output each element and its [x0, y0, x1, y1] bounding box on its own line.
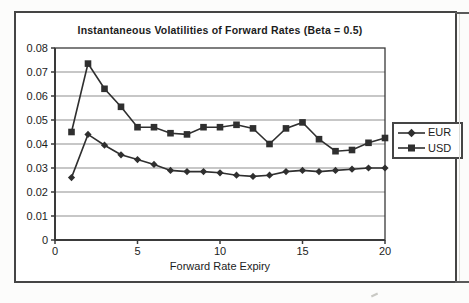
- legend-label-usd: USD: [428, 143, 451, 154]
- usd-marker: [299, 119, 306, 126]
- legend-label-eur: EUR: [428, 127, 451, 138]
- eur-marker: [117, 151, 124, 158]
- scan-artifact-bottom-rule: [455, 281, 469, 283]
- usd-marker: [382, 135, 389, 142]
- usd-marker: [101, 86, 108, 93]
- legend-item-usd: USD: [398, 141, 461, 155]
- y-tick-label: 0.05: [27, 114, 48, 126]
- usd-marker: [349, 147, 356, 154]
- usd-marker: [233, 122, 240, 129]
- legend: EUR USD: [392, 122, 463, 159]
- eur-marker: [282, 168, 289, 175]
- chart-title: Instantaneous Volatilities of Forward Ra…: [50, 24, 390, 36]
- x-tick-label: 0: [52, 245, 58, 257]
- eur-marker: [381, 164, 388, 171]
- usd-marker: [200, 124, 207, 131]
- y-tick-label: 0.01: [27, 210, 48, 222]
- y-tick-label: 0.07: [27, 66, 48, 78]
- y-tick-label: 0.04: [27, 138, 48, 150]
- eur-marker: [183, 168, 190, 175]
- y-tick-label: 0.03: [27, 162, 48, 174]
- legend-item-eur: EUR: [398, 126, 461, 140]
- x-tick-label: 10: [214, 245, 226, 257]
- y-tick-label: 0.02: [27, 186, 48, 198]
- usd-marker: [118, 104, 125, 111]
- eur-marker: [315, 168, 322, 175]
- x-axis-title: Forward Rate Expiry: [55, 260, 385, 272]
- eur-diamond-line-icon: [398, 128, 425, 138]
- usd-marker: [85, 60, 92, 67]
- scanned-chart-figure: 00.010.020.030.040.050.060.070.080510152…: [0, 0, 469, 303]
- usd-marker: [365, 140, 372, 147]
- usd-marker: [266, 141, 273, 148]
- usd-marker: [283, 125, 290, 132]
- usd-marker: [68, 129, 75, 136]
- scan-artifact-vertical-line: [459, 13, 460, 281]
- usd-marker: [151, 124, 158, 131]
- usd-marker: [134, 124, 141, 131]
- eur-marker: [365, 164, 372, 171]
- eur-marker: [200, 168, 207, 175]
- eur-marker: [68, 174, 75, 181]
- scan-artifact-top-rule: [455, 12, 469, 14]
- y-tick-label: 0: [42, 234, 48, 246]
- usd-marker: [217, 124, 224, 131]
- y-tick-label: 0.06: [27, 90, 48, 102]
- usd-marker: [167, 130, 174, 137]
- x-tick-label: 15: [296, 245, 308, 257]
- eur-marker: [233, 172, 240, 179]
- x-tick-label: 5: [134, 245, 140, 257]
- eur-marker: [134, 156, 141, 163]
- eur-marker: [249, 173, 256, 180]
- eur-marker: [266, 172, 273, 179]
- x-tick-label: 20: [379, 245, 391, 257]
- eur-marker: [150, 161, 157, 168]
- eur-marker: [348, 166, 355, 173]
- eur-marker: [216, 169, 223, 176]
- usd-marker: [316, 136, 323, 143]
- usd-marker: [332, 148, 339, 155]
- usd-marker: [250, 125, 257, 132]
- usd-square-line-icon: [398, 143, 425, 153]
- usd-marker: [184, 131, 191, 138]
- y-tick-label: 0.08: [27, 42, 48, 54]
